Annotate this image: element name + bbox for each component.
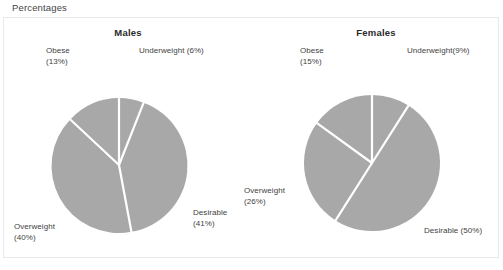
label-overweight-males: Overweight (40%): [14, 222, 55, 243]
chart-frame: Males: [3, 17, 499, 258]
label-underweight-males: Underweight (6%): [139, 46, 204, 57]
label-desirable-females: Desirable (50%): [424, 226, 482, 237]
label-underweight-females: Underweight(9%): [407, 46, 470, 57]
label-desirable-males: Desirable (41%): [193, 208, 227, 229]
pie-chart-males: Males: [4, 18, 252, 257]
label-obese-females: Obese (15%): [300, 46, 324, 67]
page-title: Percentages: [12, 2, 67, 13]
pie-chart-females: Females: [252, 18, 500, 257]
label-obese-males: Obese (13%): [46, 46, 70, 67]
label-overweight-females: Overweight (26%): [244, 186, 285, 207]
